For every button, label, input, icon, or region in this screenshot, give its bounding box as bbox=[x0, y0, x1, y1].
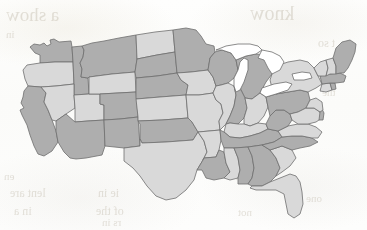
state-oklahoma bbox=[138, 118, 198, 143]
state-washington bbox=[30, 39, 73, 63]
state-utah bbox=[74, 94, 104, 122]
state-montana bbox=[80, 35, 137, 78]
state-maine bbox=[333, 40, 356, 74]
state-kansas bbox=[136, 95, 188, 121]
scanned-page: a showknowint soonetheenlent areie inin … bbox=[0, 0, 367, 230]
us-choropleth-map bbox=[0, 0, 367, 230]
state-new-mexico bbox=[104, 117, 140, 148]
state-colorado bbox=[100, 92, 138, 120]
state-oregon bbox=[23, 62, 74, 87]
lake-ontario bbox=[292, 72, 312, 80]
